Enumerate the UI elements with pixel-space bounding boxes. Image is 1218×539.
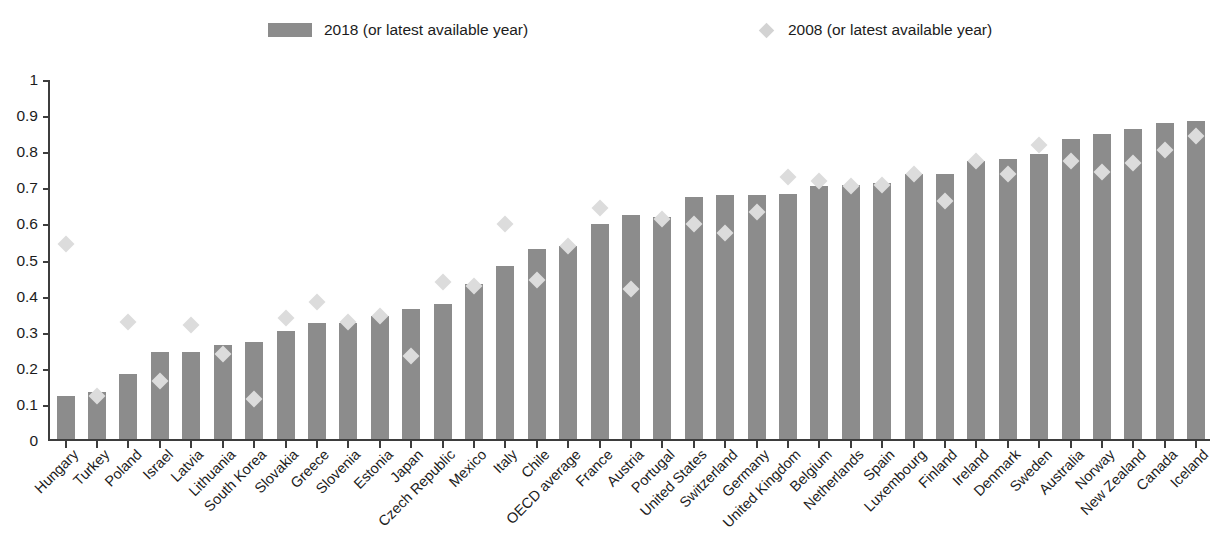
y-axis-tick <box>43 333 50 335</box>
y-axis-tick-label: 0.7 <box>16 181 38 197</box>
bar-group <box>1118 80 1149 439</box>
y-axis-tick-label: 0.8 <box>16 144 38 160</box>
diamond-marker-icon <box>497 216 514 233</box>
bar <box>1124 129 1142 439</box>
bar <box>402 309 420 439</box>
y-axis-tick-label: 0.5 <box>16 253 38 269</box>
y-axis-tick-label: 0 <box>29 433 38 449</box>
bar-group <box>490 80 521 439</box>
bar-group <box>552 80 583 439</box>
bar-group <box>835 80 866 439</box>
bar <box>873 183 891 439</box>
bar <box>151 352 169 439</box>
bar-group <box>427 80 458 439</box>
bar-group <box>270 80 301 439</box>
y-axis-tick <box>43 80 50 82</box>
x-axis-labels: HungaryTurkeyPolandIsraelLatviaLithuania… <box>48 441 1210 539</box>
diamond-marker-icon <box>434 273 451 290</box>
bar-group <box>1149 80 1180 439</box>
bar-group <box>678 80 709 439</box>
bar-group <box>364 80 395 439</box>
legend-item-2008: 2008 (or latest available year) <box>758 20 992 40</box>
bar-group <box>898 80 929 439</box>
y-axis-tick <box>43 261 50 263</box>
bar <box>842 185 860 440</box>
legend-label-2018: 2018 (or latest available year) <box>324 22 528 38</box>
bar-group <box>333 80 364 439</box>
bar-group <box>929 80 960 439</box>
bar-group <box>741 80 772 439</box>
bar-group <box>992 80 1023 439</box>
bar-group <box>772 80 803 439</box>
bar <box>653 217 671 439</box>
bar-group <box>1055 80 1086 439</box>
bar <box>1156 123 1174 439</box>
bar-group <box>710 80 741 439</box>
bar <box>182 352 200 439</box>
diamond-marker-icon <box>308 293 325 310</box>
bar <box>559 246 577 439</box>
bar-group <box>647 80 678 439</box>
bar-group <box>1181 80 1212 439</box>
legend-label-2008: 2008 (or latest available year) <box>788 22 992 38</box>
bar <box>308 323 326 439</box>
bar-group <box>521 80 552 439</box>
bar-group <box>301 80 332 439</box>
legend-item-2018: 2018 (or latest available year) <box>268 20 528 40</box>
bar <box>339 323 357 439</box>
bar <box>748 195 766 439</box>
x-axis-category-label: Hungary <box>32 447 81 496</box>
bar-group <box>458 80 489 439</box>
bar <box>496 266 514 439</box>
y-axis-tick <box>43 224 50 226</box>
y-axis-labels: 00.10.20.30.40.50.60.70.80.91 <box>0 60 44 441</box>
bar <box>936 174 954 439</box>
diamond-marker-icon <box>591 199 608 216</box>
x-axis-category-label: Italy <box>491 447 520 476</box>
bar <box>277 331 295 439</box>
bar-group <box>113 80 144 439</box>
diamond-marker-icon <box>1031 136 1048 153</box>
y-axis-tick-label: 0.3 <box>16 325 38 341</box>
bar-group <box>144 80 175 439</box>
bar <box>57 396 75 439</box>
bar <box>810 186 828 439</box>
y-axis-tick-label: 1 <box>29 72 38 88</box>
bar <box>779 194 797 439</box>
bar-group <box>207 80 238 439</box>
bar <box>905 174 923 439</box>
bar-group <box>1024 80 1055 439</box>
y-axis-tick-label: 0.2 <box>16 361 38 377</box>
bar-group <box>961 80 992 439</box>
bar <box>371 316 389 439</box>
bar <box>999 159 1017 439</box>
y-axis-tick <box>43 369 50 371</box>
bar-chart: 00.10.20.30.40.50.60.70.80.91 HungaryTur… <box>0 60 1218 539</box>
bar-group <box>867 80 898 439</box>
y-axis-tick <box>43 405 50 407</box>
diamond-marker-icon <box>780 169 797 186</box>
y-axis-tick <box>43 152 50 154</box>
plot-area <box>48 80 1210 441</box>
diamond-marker-icon <box>183 317 200 334</box>
diamond-marker-icon <box>57 236 74 253</box>
y-axis-tick-label: 0.4 <box>16 289 38 305</box>
bar <box>434 304 452 439</box>
legend-bar-swatch-icon <box>268 23 312 37</box>
bar-group <box>81 80 112 439</box>
y-axis-tick-label: 0.9 <box>16 108 38 124</box>
y-axis-tick-label: 0.1 <box>16 397 38 413</box>
diamond-marker-icon <box>120 313 137 330</box>
diamond-marker-icon <box>277 310 294 327</box>
bar-group <box>395 80 426 439</box>
bar-group <box>1086 80 1117 439</box>
y-axis-tick <box>43 116 50 118</box>
chart-legend: 2018 (or latest available year) 2008 (or… <box>0 0 1218 60</box>
bar <box>967 161 985 439</box>
bars-container <box>50 80 1210 439</box>
bar <box>1187 121 1205 439</box>
bar-group <box>176 80 207 439</box>
bar <box>591 224 609 439</box>
bar <box>685 197 703 439</box>
bar <box>622 215 640 439</box>
